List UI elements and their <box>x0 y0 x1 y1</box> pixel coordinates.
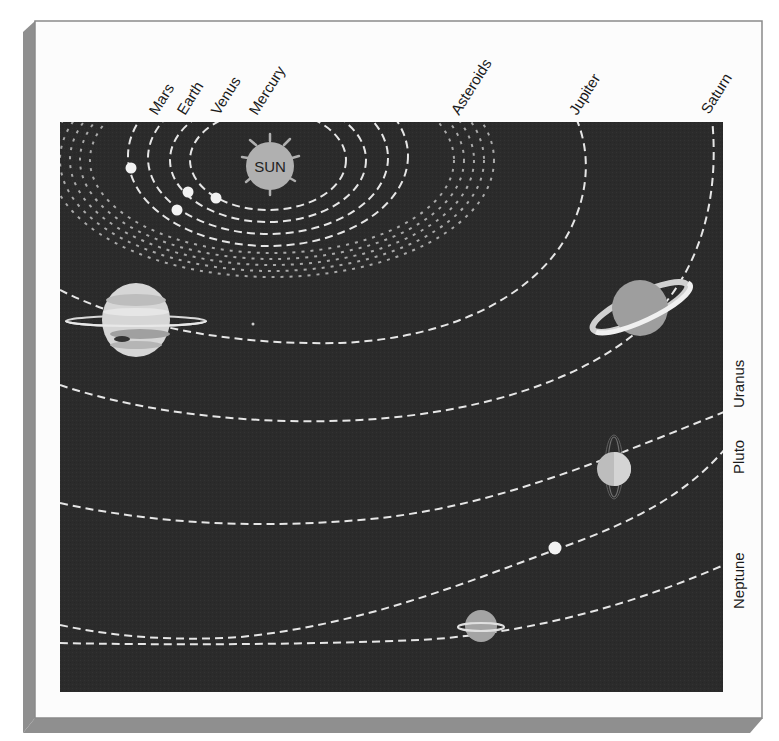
planet-mercury <box>211 193 222 204</box>
planet-pluto <box>549 542 562 555</box>
space-panel <box>60 122 723 692</box>
label-neptune: Neptune <box>730 552 747 609</box>
frame-shadow-left <box>23 21 35 733</box>
planet-venus <box>183 187 194 198</box>
asteroid-dot <box>252 323 255 326</box>
solar-system-diagram: SUN Mars Earth Venus Me <box>0 0 779 741</box>
planet-mars <box>126 163 137 174</box>
sun-label: SUN <box>254 158 286 175</box>
planet-earth <box>172 205 183 216</box>
label-uranus: Uranus <box>730 360 747 408</box>
label-pluto: Pluto <box>730 440 747 474</box>
frame-shadow-bottom <box>23 718 763 733</box>
